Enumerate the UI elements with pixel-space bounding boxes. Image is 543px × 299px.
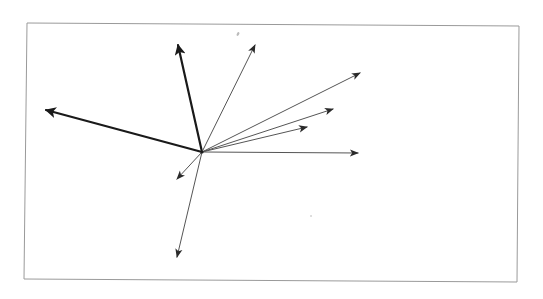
vector-arrow-v4 [202,73,360,152]
vector-arrow-v1 [46,110,202,152]
vector-group [46,45,360,257]
vector-arrow-v2 [178,45,202,152]
vector-arrow-v6 [202,127,307,152]
vector-arrow-v7 [202,152,358,153]
origin-point [200,150,203,153]
vector-arrow-v8 [177,152,202,179]
vector-arrow-v3 [202,45,255,152]
vector-arrow-v5 [202,109,333,152]
diagram-canvas [0,0,543,299]
vector-arrow-v9 [177,152,202,257]
speck-mark [310,215,312,217]
vector-diagram [0,0,543,299]
smudge-top-mark [236,32,240,37]
